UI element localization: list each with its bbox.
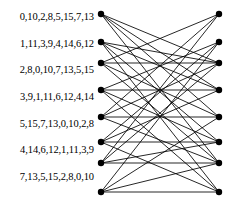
right-node-7 xyxy=(216,189,222,195)
right-node-5 xyxy=(216,139,222,145)
graph-edge xyxy=(101,117,219,192)
right-node-2 xyxy=(216,60,222,66)
graph-edge xyxy=(101,42,219,63)
left-node-7 xyxy=(98,189,104,195)
graph-edge xyxy=(101,14,219,90)
bipartite-graph-figure: 0,10,2,8,5,15,7,131,11,3,9,4,14,6,122,8,… xyxy=(0,0,231,203)
graph-edge xyxy=(101,142,219,163)
left-node-1 xyxy=(98,39,104,45)
left-node-4 xyxy=(98,114,104,120)
right-node-3 xyxy=(216,87,222,93)
right-node-4 xyxy=(216,114,222,120)
right-node-1 xyxy=(216,39,222,45)
graph-canvas xyxy=(0,0,231,203)
edge-layer xyxy=(101,14,219,192)
left-node-0 xyxy=(98,11,104,17)
right-node-6 xyxy=(216,160,222,166)
left-node-3 xyxy=(98,87,104,93)
left-node-5 xyxy=(98,139,104,145)
left-node-6 xyxy=(98,160,104,166)
right-node-0 xyxy=(216,11,222,17)
left-node-2 xyxy=(98,60,104,66)
